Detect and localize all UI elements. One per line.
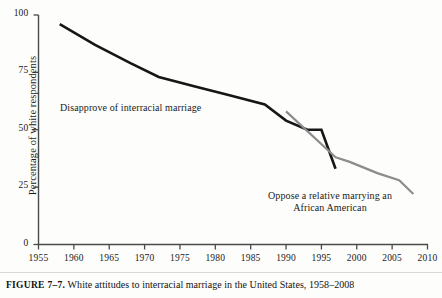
- x-axis-tick-label: 1980: [195, 253, 235, 263]
- chart-svg: [0, 0, 442, 272]
- x-axis-tick-label: 1965: [89, 253, 129, 263]
- y-axis-tick-label: 50: [3, 123, 29, 133]
- figure-caption-label: FIGURE 7–7.: [6, 280, 65, 290]
- series-line-disapprove: [60, 24, 336, 169]
- y-axis-tick-label: 100: [3, 8, 29, 18]
- series-line-oppose: [286, 111, 413, 194]
- x-axis-tick-label: 1970: [125, 253, 165, 263]
- x-axis-tick-label: 1955: [19, 253, 59, 263]
- chart-plot-area: 0255075100 19551960196519701975198019851…: [0, 0, 442, 272]
- y-axis-tick-label: 75: [3, 65, 29, 75]
- figure-container: 0255075100 19551960196519701975198019851…: [0, 0, 442, 298]
- x-axis-tick-label: 1990: [266, 253, 306, 263]
- x-axis-tick-label: 1960: [54, 253, 94, 263]
- x-axis-tick-label: 2005: [372, 253, 412, 263]
- figure-caption-text: White attitudes to interracial marriage …: [65, 279, 354, 290]
- figure-caption: FIGURE 7–7. White attitudes to interraci…: [6, 278, 436, 292]
- y-axis-title: Percentage of white respondents: [27, 16, 38, 236]
- x-axis-tick-label: 1985: [231, 253, 271, 263]
- x-axis-ticks: [39, 245, 428, 250]
- y-axis-tick-label: 25: [3, 180, 29, 190]
- annotation-disapprove-label: Disapprove of interracial marriage: [60, 102, 201, 114]
- annotation-oppose-label: Oppose a relative marrying an African Am…: [252, 190, 408, 214]
- x-axis-tick-label: 1995: [301, 253, 341, 263]
- x-axis-tick-label: 2010: [408, 253, 442, 263]
- caption-divider: [0, 272, 442, 273]
- y-axis-tick-label: 0: [3, 238, 29, 248]
- x-axis-tick-label: 1975: [160, 253, 200, 263]
- x-axis-tick-label: 2000: [337, 253, 377, 263]
